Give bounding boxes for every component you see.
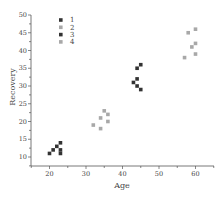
- y-tick-label: 50: [19, 11, 27, 19]
- data-point: [99, 116, 103, 120]
- x-tick-label: 30: [82, 170, 90, 178]
- data-point: [135, 84, 139, 88]
- axes: [31, 15, 214, 166]
- data-point: [190, 45, 194, 49]
- data-point: [139, 63, 143, 67]
- series-3: [132, 63, 143, 91]
- legend-marker: [59, 40, 63, 44]
- y-tick-label: 45: [19, 29, 27, 37]
- data-point: [183, 56, 187, 60]
- legend-marker: [59, 18, 63, 22]
- data-point: [59, 152, 63, 156]
- legend-marker: [59, 26, 63, 30]
- data-point: [194, 52, 198, 56]
- data-point: [59, 148, 63, 152]
- x-tick-label: 50: [155, 170, 163, 178]
- y-tick-label: 15: [19, 135, 27, 143]
- scatter-chart: 2030405060101520253035404550 1234 Age Re…: [0, 0, 221, 197]
- data-point: [186, 31, 190, 35]
- x-tick-label: 20: [45, 170, 53, 178]
- legend: 1234: [59, 16, 75, 46]
- x-axis-title: Age: [113, 181, 130, 190]
- y-axis-title: Recovery: [8, 68, 17, 106]
- data-point: [48, 152, 52, 156]
- legend-marker: [59, 33, 63, 37]
- legend-label: 4: [70, 38, 75, 46]
- data-point: [135, 66, 139, 70]
- y-tick-label: 30: [19, 82, 27, 90]
- data-point: [99, 127, 103, 131]
- y-tick-label: 25: [19, 100, 27, 108]
- series-2: [92, 109, 110, 130]
- y-tick-label: 20: [19, 118, 27, 126]
- series-1: [48, 141, 63, 155]
- data-point: [102, 109, 106, 113]
- data-point: [106, 113, 110, 117]
- data-point: [55, 145, 59, 149]
- data-point: [139, 88, 143, 92]
- data-point: [92, 123, 96, 127]
- y-tick-label: 10: [19, 153, 27, 161]
- data-points: [48, 27, 198, 155]
- data-point: [132, 81, 136, 85]
- data-point: [194, 27, 198, 31]
- data-point: [194, 42, 198, 46]
- data-point: [51, 148, 55, 152]
- x-tick-label: 40: [118, 170, 126, 178]
- series-4: [183, 27, 198, 59]
- y-tick-label: 35: [19, 64, 27, 72]
- x-tick-label: 60: [191, 170, 199, 178]
- data-point: [135, 77, 139, 81]
- y-tick-label: 40: [19, 47, 27, 55]
- data-point: [59, 141, 63, 145]
- data-point: [106, 120, 110, 124]
